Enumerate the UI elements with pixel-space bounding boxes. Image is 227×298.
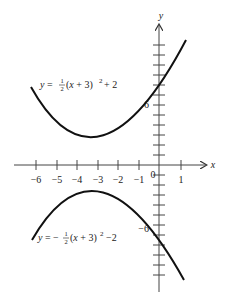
svg-text:y =: y = — [39, 79, 53, 90]
svg-text:2: 2 — [99, 77, 103, 85]
svg-text:2: 2 — [60, 85, 63, 92]
y-axis-label: y — [158, 10, 164, 21]
svg-text:−2: −2 — [106, 232, 117, 243]
svg-text:1: 1 — [179, 174, 184, 185]
svg-text:1: 1 — [64, 230, 67, 237]
svg-text:−5: −5 — [52, 174, 63, 185]
lower-equation-label: y = − 1 2 (x + 3) 2 −2 — [37, 230, 117, 245]
svg-text:2: 2 — [100, 230, 104, 238]
svg-text:−6: −6 — [31, 174, 42, 185]
svg-text:(x + 3): (x + 3) — [66, 79, 93, 91]
svg-text:2: 2 — [64, 238, 67, 245]
x-axis-label: x — [210, 159, 216, 170]
svg-text:+ 2: + 2 — [104, 79, 117, 90]
svg-text:−2: −2 — [113, 174, 124, 185]
origin-label: 0 — [151, 169, 156, 180]
x-tick-labels: −6 −5 −4 −3 −2 −1 1 — [31, 174, 184, 185]
svg-text:−4: −4 — [72, 174, 83, 185]
parabola-graph: −6 −5 −4 −3 −2 −1 1 0 6 −6 y x y = 1 2 (… — [0, 0, 227, 298]
svg-text:1: 1 — [60, 77, 63, 84]
svg-text:y = −: y = − — [37, 232, 59, 243]
svg-text:−1: −1 — [134, 174, 145, 185]
upper-equation-label: y = 1 2 (x + 3) 2 + 2 — [39, 77, 117, 92]
svg-text:−3: −3 — [93, 174, 104, 185]
svg-text:(x + 3): (x + 3) — [70, 232, 97, 244]
